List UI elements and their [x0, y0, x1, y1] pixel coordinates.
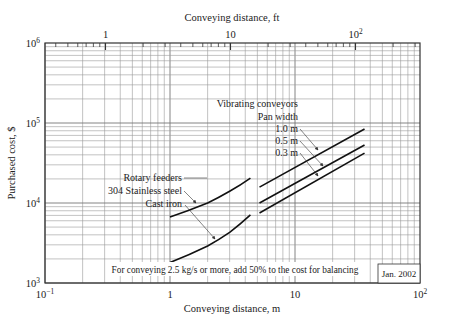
grid-lines — [45, 43, 420, 283]
conveyor-cost-chart: 10−1110102110102103104105106 Conveying d… — [0, 0, 450, 325]
series-line — [170, 215, 250, 263]
label-vibrating-conveyors: Vibrating conveyors — [217, 98, 298, 109]
y-tick-label: 103 — [26, 276, 41, 289]
stainless-arrow — [184, 191, 196, 203]
label-0-3m: 0.3 m — [275, 147, 298, 158]
y-tick-label: 106 — [26, 36, 41, 49]
y-tick-label: 104 — [26, 196, 41, 209]
cost-note: For conveying 2.5 kg/s or more, add 50% … — [112, 265, 359, 275]
label-1-0m: 1.0 m — [275, 123, 298, 134]
label-304-stainless: 304 Stainless steel — [108, 185, 182, 196]
plot-frame — [45, 43, 420, 283]
label-rotary-feeders: Rotary feeders — [123, 172, 182, 183]
label-cast-iron: Cast iron — [146, 198, 182, 209]
cast-iron-arrow — [185, 205, 215, 239]
y-tick-label: 105 — [26, 116, 41, 129]
x-axis-title: Conveying distance, m — [184, 303, 281, 314]
x2-axis-title: Conveying distance, ft — [185, 12, 280, 23]
y-axis-title: Purchased cost, $ — [6, 126, 17, 199]
x-tick-label: 10−1 — [36, 287, 55, 300]
label-0-5m: 0.5 m — [275, 135, 298, 146]
series-line — [260, 153, 365, 213]
date-label: Jan. 2002 — [382, 269, 417, 279]
label-pan-width: Pan width — [258, 111, 298, 122]
x-tick-label: 10 — [290, 289, 301, 300]
x2-tick-label: 102 — [348, 27, 363, 40]
x-tick-label: 102 — [413, 287, 428, 300]
x-tick-label: 1 — [167, 289, 172, 300]
x2-tick-label: 10 — [225, 29, 236, 40]
x2-tick-label: 1 — [103, 29, 108, 40]
series-line — [170, 178, 250, 217]
